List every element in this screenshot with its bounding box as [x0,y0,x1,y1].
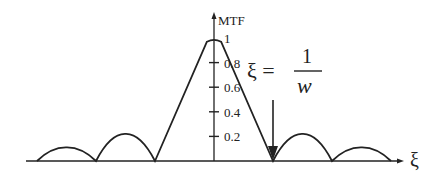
annotation-xi-equals: ξ = [247,58,275,83]
y-axis-arrowhead [212,12,217,19]
annotation-denominator: w [297,73,312,98]
y-tick-label: 0.2 [224,129,240,144]
y-tick-label: 1 [224,31,231,46]
annotation-numerator: 1 [302,45,312,67]
y-axis-label: MTF [218,13,245,28]
x-axis-label: ξ [410,149,419,171]
y-tick-label: 0.4 [224,105,241,120]
mtf-chart: MTF ξ 0.20.40.60.81 ξ = 1 w [0,0,446,181]
x-axis-arrowhead [397,159,404,164]
